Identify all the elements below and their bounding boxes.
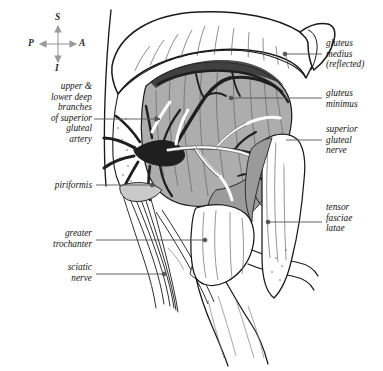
compass-anterior-label: A	[79, 38, 85, 48]
compass-inferior-label: I	[55, 63, 59, 73]
leader-dot-sciatic-nerve	[162, 272, 166, 276]
leader-dot-gluteus-minimus	[229, 96, 233, 100]
leader-dot-greater-trochanter	[203, 238, 207, 242]
label-gluteus-medius-reflected: gluteus medius (reflected)	[326, 38, 383, 70]
label-greater-trochanter: greater trochanter	[16, 228, 92, 249]
leader-dot-gluteus-medius-reflected	[283, 52, 287, 56]
label-superior-gluteal-artery: upper & lower deep branches of superior …	[8, 81, 92, 145]
label-tensor-fasciae-latae: tensor fasciae latae	[326, 202, 383, 234]
label-sciatic-nerve: sciatic nerve	[28, 262, 92, 283]
label-piriformis: piriformis	[18, 180, 92, 191]
leader-dot-piriformis	[150, 183, 154, 187]
compass-posterior-label: P	[28, 38, 34, 48]
label-superior-gluteal-nerve: superior gluteal nerve	[326, 124, 383, 156]
compass-superior-label: S	[55, 12, 60, 22]
label-gluteus-minimus: gluteus minimus	[326, 88, 383, 109]
leader-dot-tensor-fasciae-latae	[266, 220, 270, 224]
